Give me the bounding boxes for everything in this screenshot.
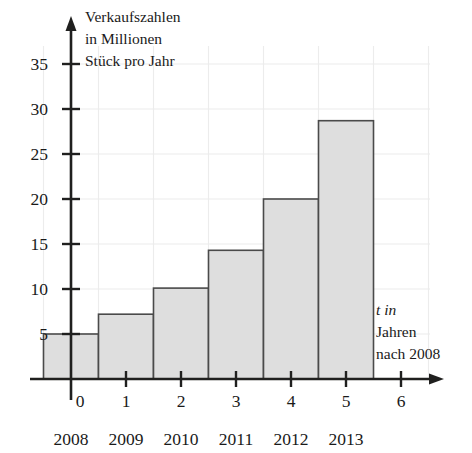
x-tick-label: 3 xyxy=(232,391,241,411)
y-axis-ticks: 5101520253035 xyxy=(31,54,81,344)
x-axis-title: t in Jahren nach 2008 xyxy=(376,301,440,362)
x-tick-label: 6 xyxy=(397,391,406,411)
year-label: 2009 xyxy=(109,429,144,449)
x-axis-title-line-3: nach 2008 xyxy=(376,345,440,362)
chart-canvas: 5101520253035 0123456 200820092010201120… xyxy=(0,0,472,453)
y-tick-label: 35 xyxy=(31,54,49,74)
y-tick-label: 20 xyxy=(31,189,49,209)
y-axis-title-line-3: Stück pro Jahr xyxy=(85,52,175,69)
bar-2012 xyxy=(264,199,319,379)
bar-2010 xyxy=(154,288,209,379)
y-axis-title-line-2: in Millionen xyxy=(85,30,162,47)
x-tick-label: 0 xyxy=(76,391,85,411)
year-label: 2011 xyxy=(219,429,253,449)
bar-2011 xyxy=(209,250,264,379)
year-label: 2013 xyxy=(329,429,364,449)
year-label: 2010 xyxy=(164,429,199,449)
year-label: 2012 xyxy=(274,429,309,449)
x-axis-title-line-1: t in xyxy=(376,301,396,318)
y-axis-title: Verkaufszahlen in Millionen Stück pro Ja… xyxy=(85,8,181,69)
bar-chart-figure: 5101520253035 0123456 200820092010201120… xyxy=(0,0,472,453)
y-tick-label: 25 xyxy=(31,144,49,164)
x-tick-label: 2 xyxy=(177,391,186,411)
y-tick-label: 30 xyxy=(31,99,49,119)
y-axis-arrow-icon xyxy=(66,16,77,31)
bar-2009 xyxy=(99,314,154,379)
x-tick-label: 4 xyxy=(287,391,296,411)
y-tick-label: 5 xyxy=(39,324,48,344)
year-label: 2008 xyxy=(54,429,89,449)
y-tick-label: 15 xyxy=(31,234,49,254)
x-axis-title-line-2: Jahren xyxy=(376,323,417,340)
bar-2013 xyxy=(319,121,374,379)
y-tick-label: 10 xyxy=(31,279,49,299)
x-tick-label: 5 xyxy=(342,391,351,411)
x-tick-label: 1 xyxy=(122,391,131,411)
x-axis-arrow-icon xyxy=(429,374,444,385)
year-labels: 200820092010201120122013 xyxy=(54,429,364,449)
y-axis-title-line-1: Verkaufszahlen xyxy=(85,8,181,25)
